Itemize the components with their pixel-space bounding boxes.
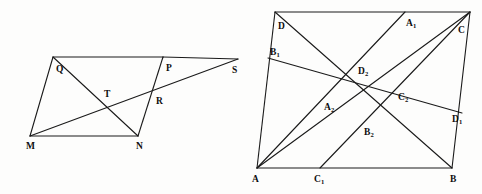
left-point-label-m: M — [26, 141, 35, 151]
right-cevian-A-to-C — [257, 12, 470, 168]
right-subscript-b2: 2 — [371, 131, 375, 138]
right-subscript-d1: 1 — [459, 118, 463, 125]
right-point-label-c2: C2 — [398, 92, 409, 103]
left-point-label-r: R — [156, 96, 163, 106]
left-point-label-n: N — [136, 141, 143, 151]
left-side-MQ-left — [30, 57, 53, 136]
left-side-PS-top-ext — [163, 57, 238, 59]
right-geometry-diagram: ABCDA1B1C1D1A2B2C2D2 — [240, 0, 482, 194]
right-point-label-c: C — [458, 25, 465, 35]
left-geometry-diagram: MNQPSTR — [0, 0, 240, 194]
left-point-label-q: Q — [56, 64, 64, 74]
left-point-label-t: T — [104, 89, 111, 99]
left-point-label-s: S — [232, 65, 237, 75]
right-point-label-b: B — [450, 174, 457, 184]
right-point-label-a1: A1 — [406, 18, 417, 29]
right-point-label-b2: B2 — [364, 127, 375, 138]
right-subscript-c1: 1 — [321, 178, 325, 185]
right-subscript-c2: 2 — [405, 96, 409, 103]
right-subscript-a1: 1 — [413, 22, 417, 29]
right-cevian-C1-to-C — [320, 12, 470, 168]
right-point-label-d2: D2 — [358, 66, 369, 77]
left-diagonal-QN — [53, 57, 138, 136]
right-point-label-b1: B1 — [270, 47, 280, 58]
right-point-label-c1: C1 — [314, 174, 325, 185]
right-subscript-a2: 2 — [331, 106, 335, 113]
right-point-label-a2: A2 — [324, 102, 335, 113]
geometry-figure-container: MNQPSTR ABCDA1B1C1D1A2B2C2D2 — [0, 0, 482, 194]
right-segment-group — [257, 12, 470, 168]
left-label-group: MNQPSTR — [26, 63, 237, 151]
right-subscript-d2: 2 — [365, 70, 369, 77]
right-point-label-d1: D1 — [452, 114, 463, 125]
right-label-group: ABCDA1B1C1D1A2B2C2D2 — [252, 18, 465, 185]
right-side-AD-left — [257, 12, 275, 168]
right-point-label-d: D — [278, 21, 285, 31]
left-point-label-p: P — [166, 63, 172, 73]
right-point-label-a: A — [252, 174, 259, 184]
right-side-BC-right — [452, 12, 470, 168]
right-subscript-b1: 1 — [277, 51, 281, 58]
